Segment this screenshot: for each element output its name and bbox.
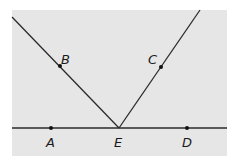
label-b: B <box>61 52 70 67</box>
point-d <box>185 126 189 130</box>
label-a: A <box>45 135 55 150</box>
label-c: C <box>148 52 158 67</box>
label-d: D <box>182 135 192 150</box>
point-c <box>159 65 163 69</box>
point-a <box>49 126 53 130</box>
geometry-diagram: ABCDE <box>0 0 234 164</box>
label-e: E <box>114 135 123 150</box>
